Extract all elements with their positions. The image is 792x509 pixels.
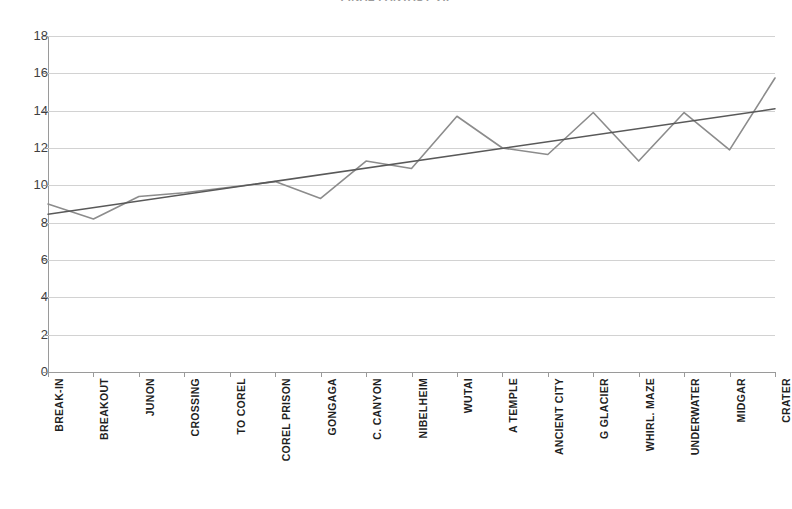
x-axis-label: WUTAI [462,378,474,413]
x-axis-label: COREL PRISON [280,378,292,461]
x-axis-label: CRATER [780,378,792,423]
trendline [48,109,775,214]
x-axis-label: G GLACIER [598,378,610,439]
x-axis-label: CROSSING [189,378,201,436]
x-axis-label: TO COREL [235,378,247,434]
x-axis-label: MIDGAR [735,378,747,422]
x-axis-category-labels: BREAK-INBREAKOUTJUNONCROSSINGTO CORELCOR… [0,378,790,509]
x-axis-label: ANCIENT CITY [553,378,565,455]
x-axis-label: GONGAGA [326,378,338,436]
x-axis-label: BREAKOUT [98,378,110,440]
x-axis-label: NIBELHEIM [417,378,429,438]
x-axis-label: BREAK-IN [53,378,65,432]
x-axis-label: C. CANYON [371,378,383,440]
x-axis-label: UNDERWATER [689,378,701,455]
x-axis-label: A TEMPLE [507,378,519,433]
x-axis-label: JUNON [144,378,156,416]
x-axis-label: WHIRL. MAZE [644,378,656,451]
